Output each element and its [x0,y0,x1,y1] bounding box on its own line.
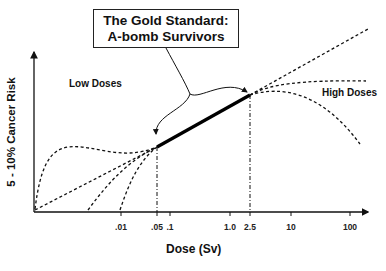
x-tick-label: 100 [343,222,357,232]
y-axis-label: 5 - 10% Cancer Risk [5,77,17,186]
low-dose-curves [35,147,157,210]
threshold-curve-1 [88,147,157,210]
dose-response-diagram: The Gold Standard: A-bomb Survivors Low … [0,0,386,271]
callout-title-line2: A-bomb Survivors [107,29,224,45]
axes [34,52,368,216]
linear-high-curve [250,29,368,95]
cell-killing-curve [250,91,360,144]
high-doses-label: High Doses [322,87,377,98]
x-tick-label: 1.0 [224,222,236,232]
x-tick-label: 2.5 [244,222,256,232]
x-axis-label: Dose (Sv) [166,242,221,256]
observed-data-line [157,95,250,147]
low-doses-label: Low Doses [69,78,122,89]
linear-low-curve [35,147,157,210]
x-tick-label: .05 [151,222,163,232]
x-tick-label: .01 [115,222,127,232]
gold-standard-callout-box: The Gold Standard: A-bomb Survivors [93,9,239,48]
callout-title-line1: The Gold Standard: [103,13,228,29]
x-tick-label: 10 [286,222,295,232]
x-tick-label: .1 [166,222,173,232]
